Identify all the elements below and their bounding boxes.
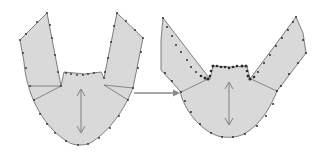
deformed-mesh-outline	[161, 17, 306, 137]
mesh-deformation-diagram	[0, 0, 322, 158]
initial-mesh	[19, 12, 144, 146]
deformed-mesh	[161, 16, 307, 138]
transition-arrow-icon	[134, 90, 180, 97]
